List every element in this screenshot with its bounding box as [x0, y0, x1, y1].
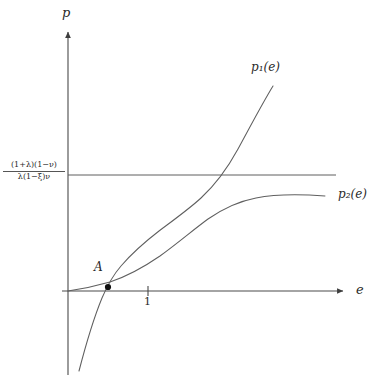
curve-label-p2: p₂(e) — [338, 188, 367, 200]
threshold-denominator: λ(1−ξ)ν — [3, 172, 65, 182]
curve-p2 — [68, 195, 325, 291]
point-a-label: A — [94, 261, 103, 273]
y-axis-label: p — [62, 6, 70, 19]
x-axis-tick-label-one: 1 — [144, 296, 151, 307]
threshold-value-label: (1+λ)(1−ν) λ(1−ξ)ν — [3, 161, 65, 181]
x-axis-label: e — [356, 283, 364, 296]
figure-canvas: p e p₁(e) p₂(e) A 1 (1+λ)(1−ν) λ(1−ξ)ν — [0, 0, 378, 383]
plot-svg — [0, 0, 378, 383]
curve-label-p1: p₁(e) — [251, 61, 280, 73]
curve-p1 — [79, 86, 273, 371]
threshold-numerator: (1+λ)(1−ν) — [3, 161, 65, 172]
point-a-marker — [105, 284, 111, 290]
